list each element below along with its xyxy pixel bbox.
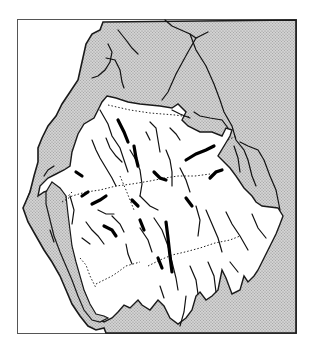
map-figure [0,0,313,352]
drainage-map [0,0,313,352]
